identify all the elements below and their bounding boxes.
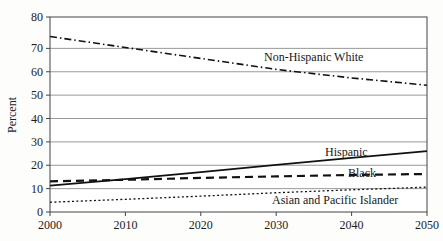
y-tick-label-10: 10: [31, 182, 43, 196]
series-label-asian-and-pacific-islander: Asian and Pacific Islander: [272, 193, 398, 207]
y-tick-label-80: 80: [31, 10, 43, 24]
line-chart-figure: 0 10 20 30 40 50 60 70 80 Percent 2000 2…: [0, 0, 443, 241]
y-tick-label-20: 20: [31, 158, 43, 172]
series-label-non-hispanic-white: Non-Hispanic White: [264, 50, 363, 64]
y-tick-label-60: 60: [31, 65, 43, 79]
x-axis-tick-labels: 2000 2010 2020 2030 2040 2050: [38, 218, 439, 232]
series-label-black: Black: [348, 166, 376, 180]
y-tick-label-40: 40: [31, 112, 43, 126]
x-tick-marks: [50, 212, 427, 216]
x-tick-label-2040: 2040: [340, 218, 364, 232]
y-tick-label-50: 50: [31, 88, 43, 102]
x-tick-label-2030: 2030: [264, 218, 288, 232]
chart-canvas: 0 10 20 30 40 50 60 70 80 Percent 2000 2…: [0, 0, 443, 241]
y-tick-label-70: 70: [31, 41, 43, 55]
x-tick-label-2000: 2000: [38, 218, 62, 232]
x-tick-label-2050: 2050: [415, 218, 439, 232]
plot-area-background: [50, 17, 427, 212]
y-tick-label-0: 0: [37, 205, 43, 219]
x-tick-label-2010: 2010: [113, 218, 137, 232]
y-axis-tick-labels: 0 10 20 30 40 50 60 70 80: [31, 10, 43, 219]
y-tick-label-30: 30: [31, 135, 43, 149]
y-tick-marks: [46, 17, 50, 212]
series-label-hispanic: Hispanic: [325, 145, 368, 159]
x-tick-label-2020: 2020: [189, 218, 213, 232]
y-axis-title: Percent: [5, 96, 19, 133]
